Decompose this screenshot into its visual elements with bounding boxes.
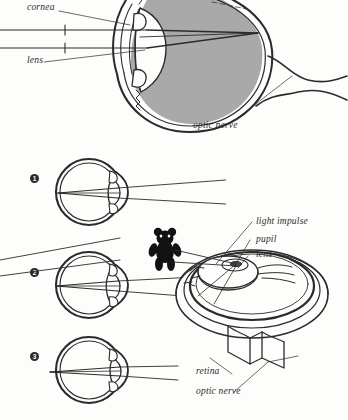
iris-upper [133, 13, 146, 30]
light-impulse-ray-from-eye2 [0, 260, 120, 276]
optic-nerve-lower-edge [256, 90, 347, 106]
label-optic-nerve-3d: optic nerve [196, 386, 241, 396]
label-pupil: pupil [256, 234, 277, 244]
bear-eye-right [168, 234, 171, 237]
label-light-impulse: light impulse [256, 216, 308, 226]
eye1-incoming-ray-lower [118, 198, 226, 204]
eye1-iris-lower [109, 204, 118, 214]
ciliary-zonule-lower [136, 90, 140, 110]
label-optic-nerve-top: optic nerve [193, 120, 238, 130]
cornea-outer [113, 0, 126, 74]
optic-nerve-upper-edge [268, 56, 347, 82]
leader-optic-nerve-3d-tail [268, 356, 298, 362]
light-impulse-ray-from-eye1 [0, 238, 120, 260]
optic-nerve-stub-bridge-lower [250, 358, 262, 364]
eye1-incoming-ray-upper [118, 180, 226, 188]
label-lens-3d: lens [256, 249, 272, 259]
eye-anatomy-figure: cornea lens optic nerve 1 [0, 0, 348, 420]
step-marker-1: 1 [30, 174, 39, 183]
lens-disc [198, 256, 258, 288]
ciliary-zonule-upper [139, 0, 142, 4]
label-lens: lens [27, 55, 43, 65]
label-cornea: cornea [27, 2, 55, 12]
three-dimensional-eye-illustration [0, 220, 348, 420]
iris-lower [132, 70, 146, 88]
bear-eye-left [160, 234, 163, 237]
label-retina: retina [196, 366, 220, 376]
eye-cross-section-illustration [0, 0, 348, 160]
teddy-bear-icon [147, 228, 183, 271]
